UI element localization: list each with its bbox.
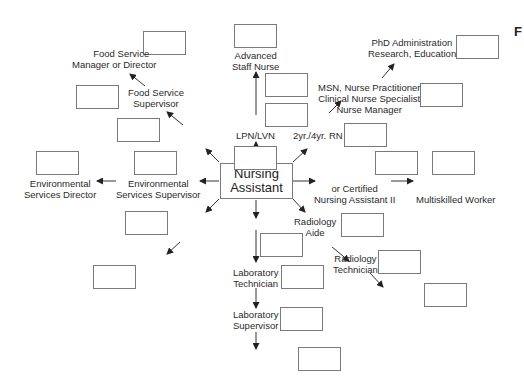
label-env-supervisor: Environmental Services Supervisor — [116, 178, 200, 200]
label-rn: 2yr./4yr. RN — [293, 130, 343, 141]
blank-box-env-supervisor[interactable] — [134, 151, 177, 175]
blank-box-rn[interactable] — [344, 123, 387, 147]
blank-box-lpn[interactable] — [234, 146, 277, 170]
blank-box-food-supervisor[interactable] — [76, 85, 119, 109]
blank-box-msn[interactable] — [420, 83, 463, 107]
label-env-director: Environmental Services Director — [24, 178, 96, 200]
label-cna2: or Certified Nursing Assistant II — [314, 183, 395, 205]
label-food-service-supervisor: Food Service Supervisor — [128, 87, 184, 109]
label-multiskilled: Multiskilled Worker — [416, 194, 496, 205]
center-label-line2: Assistant — [230, 181, 283, 195]
label-phd: PhD Administration Research, Education — [368, 37, 456, 59]
blank-box-lab-next[interactable] — [298, 347, 341, 371]
label-lab-supervisor: Laboratory Supervisor — [233, 309, 278, 331]
label-lpn: LPN/LVN — [236, 130, 275, 141]
blank-box-nursing-lower[interactable] — [265, 103, 308, 127]
label-advanced-staff-nurse: Advanced Staff Nurse — [232, 50, 279, 72]
blank-box-advanced-staff-nurse[interactable] — [234, 24, 277, 48]
blank-box-radiology-aide[interactable] — [341, 213, 384, 237]
blank-box-cna2[interactable] — [375, 151, 418, 175]
blank-box-nursing-upper[interactable] — [265, 73, 308, 97]
blank-box-radiology-tech[interactable] — [378, 250, 421, 274]
blank-box-lab-tech[interactable] — [281, 265, 324, 289]
label-food-service-manager: Food Service Manager or Director — [72, 48, 156, 70]
blank-box-env-director[interactable] — [36, 151, 79, 175]
label-radiology-technician: Radiology Technician — [333, 253, 378, 275]
blank-box-multiskilled[interactable] — [432, 151, 475, 175]
label-msn: MSN, Nurse Practitioner Clinical Nurse S… — [318, 82, 420, 115]
label-radiology-aide: Radiology Aide — [294, 216, 336, 238]
career-ladder-diagram: Nursing Assistant Food Service Manager o… — [0, 0, 524, 383]
blank-box-lower-left-2[interactable] — [93, 265, 136, 289]
blank-box-lower-left-1[interactable] — [125, 211, 168, 235]
page-letter: F — [514, 24, 522, 39]
blank-box-lab-supervisor[interactable] — [280, 307, 323, 331]
blank-box-food-entry[interactable] — [117, 118, 160, 142]
label-lab-technician: Laboratory Technician — [233, 267, 278, 289]
blank-box-radiology-next[interactable] — [424, 283, 467, 307]
blank-box-phd[interactable] — [456, 35, 499, 59]
